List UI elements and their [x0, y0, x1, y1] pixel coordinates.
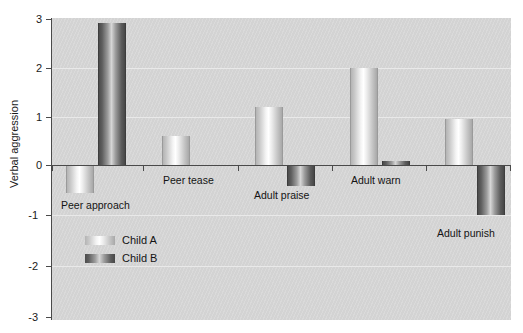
x-tick-mark-3 [332, 166, 333, 171]
y-tick-label-3: 3 [20, 14, 42, 25]
legend-swatch-child-b [85, 254, 115, 263]
legend: Child A Child B [85, 233, 157, 269]
y-tick-label-minus-1: -1 [16, 210, 38, 221]
x-tick-mark-1 [143, 166, 144, 171]
legend-label-child-a: Child A [122, 234, 157, 246]
category-label-peer-tease: Peer tease [163, 175, 214, 186]
category-label-peer-approach: Peer approach [61, 200, 130, 211]
category-label-adult-praise: Adult praise [254, 190, 309, 201]
y-tick-label-2: 2 [20, 63, 42, 74]
x-tick-mark-2 [238, 166, 239, 171]
x-tick-mark-0 [52, 166, 53, 171]
x-tick-mark-4 [426, 166, 427, 171]
bar-peer-approach-child-b [98, 23, 126, 165]
y-tick-label-minus-2: -2 [16, 261, 38, 272]
figure-container: Verbal aggression 3 2 1 0 -1 -2 -3 [0, 0, 523, 333]
y-tick-label-1: 1 [20, 112, 42, 123]
plot-area: Peer approach Peer tease Adult praise Ad… [52, 18, 511, 320]
category-label-adult-warn: Adult warn [351, 175, 401, 186]
y-tick-label-minus-3: -3 [16, 312, 38, 323]
zero-axis-line [52, 165, 511, 166]
legend-label-child-b: Child B [122, 252, 157, 264]
y-axis-title: Verbal aggression [8, 84, 20, 204]
bar-adult-warn-child-a [350, 68, 378, 165]
legend-item-child-a: Child A [85, 233, 157, 247]
bar-adult-punish-child-a [445, 119, 473, 165]
y-tick-label-0: 0 [20, 160, 42, 171]
legend-swatch-child-a [85, 236, 115, 245]
category-label-adult-punish: Adult punish [437, 228, 495, 239]
bar-adult-punish-child-b [477, 165, 505, 215]
bar-peer-approach-child-a [66, 165, 94, 193]
gridline-minus-1 [52, 215, 511, 216]
legend-item-child-b: Child B [85, 251, 157, 265]
bar-adult-praise-child-a [255, 107, 283, 165]
x-tick-mark-5 [510, 166, 511, 171]
bar-peer-tease-child-a [162, 136, 190, 165]
bar-adult-praise-child-b [287, 165, 315, 186]
